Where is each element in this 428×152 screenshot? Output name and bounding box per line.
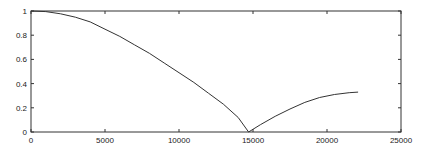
y-tick-label: 0.6 xyxy=(16,55,28,64)
x-tick-label: 25000 xyxy=(390,136,413,145)
y-tick-label: 0.2 xyxy=(16,104,28,113)
y-tick-label: 0 xyxy=(23,128,28,137)
x-tick-label: 5000 xyxy=(96,136,114,145)
x-tick-label: 15000 xyxy=(242,136,265,145)
x-tick-label: 0 xyxy=(29,136,34,145)
x-tick-label: 10000 xyxy=(168,136,191,145)
plot-area xyxy=(31,11,401,132)
y-tick-label: 0.8 xyxy=(16,31,28,40)
x-tick-label: 20000 xyxy=(316,136,339,145)
y-tick-label: 1 xyxy=(23,7,28,16)
line-chart: 00.20.40.60.81 0500010000150002000025000 xyxy=(0,0,428,152)
y-tick-label: 0.4 xyxy=(16,80,28,89)
